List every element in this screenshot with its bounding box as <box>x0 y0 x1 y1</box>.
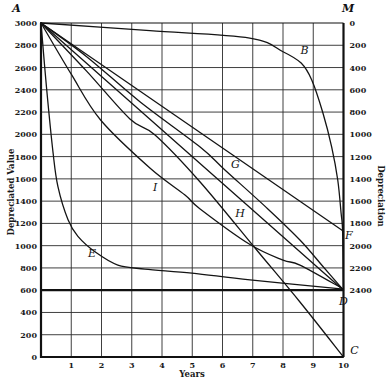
y-tick-label: 2600 <box>15 63 38 73</box>
y-tick-label: 0 <box>31 352 37 362</box>
chart-canvas: 0200400600800100012001400160018002000220… <box>0 0 386 384</box>
y-right-tick-label: 1400 <box>350 174 373 184</box>
y-axis-title-left: Depreciated Value <box>6 148 16 235</box>
x-tick-label: 4 <box>159 360 165 370</box>
y-right-tick-label: 2000 <box>350 241 373 251</box>
grid <box>41 23 344 357</box>
y-tick-label: 3000 <box>15 18 38 28</box>
y-right-tick-label: 1200 <box>350 152 373 162</box>
y-tick-label: 2400 <box>15 85 38 95</box>
y-axis-left-ticks: 0200400600800100012001400160018002000220… <box>15 18 38 362</box>
point-label-a: A <box>11 2 21 15</box>
y-tick-label: 400 <box>20 307 37 317</box>
y-right-tick-label: 2200 <box>350 263 373 273</box>
x-tick-label: 6 <box>220 360 226 370</box>
x-tick-label: 8 <box>280 360 286 370</box>
y-axis-title-right: Depreciation <box>376 165 386 227</box>
point-label-g: G <box>231 158 240 171</box>
y-right-tick-label: 2400 <box>350 285 373 295</box>
x-axis-title: Years <box>178 369 205 379</box>
y-tick-label: 1600 <box>15 174 38 184</box>
y-tick-label: 200 <box>20 330 37 340</box>
point-label-d: D <box>338 295 348 308</box>
x-tick-label: 3 <box>129 360 135 370</box>
y-tick-label: 600 <box>20 285 37 295</box>
y-tick-label: 1400 <box>15 196 38 206</box>
y-right-tick-label: 0 <box>350 18 356 28</box>
point-label-h: H <box>234 207 245 220</box>
y-right-tick-label: 200 <box>350 40 367 50</box>
point-label-m: M <box>341 2 355 15</box>
x-axis-ticks: 12345678910 <box>68 360 349 370</box>
x-tick-label: 7 <box>250 360 256 370</box>
y-tick-label: 800 <box>20 263 37 273</box>
point-label-b: B <box>300 44 309 57</box>
point-labels: AMBFDCEGHI <box>11 2 359 356</box>
y-tick-label: 2000 <box>15 129 38 139</box>
point-label-f: F <box>344 229 353 242</box>
point-label-c: C <box>350 344 359 357</box>
x-tick-label: 10 <box>338 360 350 370</box>
x-tick-label: 9 <box>310 360 316 370</box>
y-tick-label: 1800 <box>15 152 38 162</box>
y-right-tick-label: 1600 <box>350 196 373 206</box>
y-tick-label: 1000 <box>15 241 38 251</box>
x-tick-label: 2 <box>99 360 105 370</box>
y-right-tick-label: 600 <box>350 85 367 95</box>
y-right-tick-label: 1800 <box>350 218 373 228</box>
depreciation-chart: 0200400600800100012001400160018002000220… <box>0 0 386 384</box>
y-right-tick-label: 400 <box>350 63 367 73</box>
y-right-tick-label: 800 <box>350 107 367 117</box>
y-tick-label: 1200 <box>15 218 38 228</box>
y-axis-right-ticks: 0200400600800100012001400160018002000220… <box>350 18 373 295</box>
y-tick-label: 2200 <box>15 107 38 117</box>
y-right-tick-label: 1000 <box>350 129 373 139</box>
y-tick-label: 2800 <box>15 40 38 50</box>
point-label-e: E <box>87 247 96 260</box>
point-label-i: I <box>152 181 158 194</box>
x-tick-label: 1 <box>68 360 74 370</box>
